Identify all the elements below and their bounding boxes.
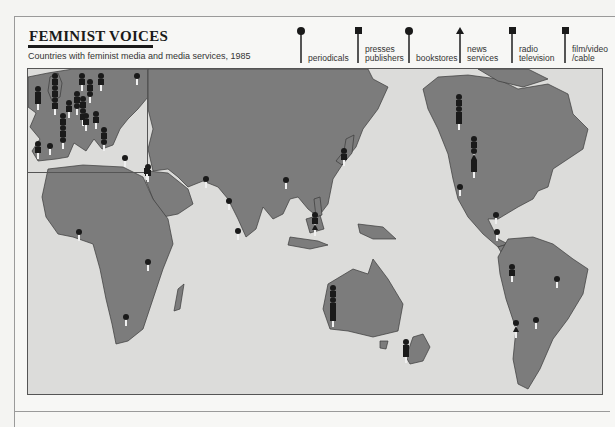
circle-marker-icon	[145, 259, 151, 265]
square-marker-icon	[52, 103, 58, 109]
map-pin-israel	[144, 168, 150, 180]
south-america	[498, 237, 588, 389]
map-pin-denmark	[87, 79, 93, 103]
legend-label: radiotelevision	[519, 45, 554, 63]
map-pin-mexico	[457, 184, 463, 196]
legend-stem	[300, 33, 302, 63]
circle-marker-icon	[122, 155, 128, 161]
map-pin-philippines	[312, 212, 318, 236]
map-pin-south-africa	[123, 314, 129, 326]
map-pin-greece	[122, 155, 128, 167]
title-underline	[28, 45, 153, 48]
circle-marker-icon	[47, 143, 53, 149]
circle-marker-icon	[283, 177, 289, 183]
legend-label: newsservices	[467, 45, 498, 63]
square-marker-icon	[341, 154, 347, 160]
map-pin-canada	[456, 94, 462, 130]
north-america	[423, 75, 588, 247]
circle-marker-icon	[297, 27, 305, 35]
map-pin-australia	[330, 285, 336, 327]
map-pin-switzerland	[83, 113, 89, 131]
square-marker-icon	[83, 119, 89, 125]
tasmania	[380, 341, 388, 349]
map-pin-pakistan	[203, 176, 209, 188]
square-marker-icon	[79, 79, 85, 85]
map-pin-kenya	[145, 259, 151, 271]
square-marker-icon	[509, 270, 515, 276]
square-marker-icon	[471, 166, 477, 172]
circle-marker-icon	[76, 229, 82, 235]
legend-stem	[511, 33, 513, 63]
legend-label: periodicals	[308, 54, 349, 63]
map-pin-colombia	[494, 229, 500, 241]
page-subtitle: Countries with feminist media and media …	[28, 51, 251, 61]
square-marker-icon	[93, 117, 99, 123]
map-pin-norway	[79, 73, 85, 91]
triangle-marker-icon	[513, 326, 519, 332]
legend-label: film/video/cable	[572, 45, 608, 63]
map-pin-belgium	[66, 100, 72, 118]
square-marker-icon	[144, 168, 150, 174]
triangle-marker-icon	[456, 27, 464, 34]
square-marker-icon	[562, 27, 569, 34]
square-marker-icon	[456, 118, 462, 124]
map-pin-united-states	[471, 136, 477, 178]
map-pin-finland	[134, 73, 140, 85]
map-pin-india	[226, 198, 232, 210]
map-pin-austria	[93, 111, 99, 129]
square-marker-icon	[98, 79, 104, 85]
square-marker-icon	[35, 98, 41, 104]
circle-marker-icon	[493, 212, 499, 218]
map-pin-chile	[513, 320, 519, 338]
triangle-marker-icon	[312, 224, 318, 230]
circle-marker-icon	[60, 137, 66, 143]
legend-stem	[408, 33, 410, 63]
circle-marker-icon	[203, 176, 209, 182]
new-guinea	[358, 224, 396, 239]
map-pin-sweden	[98, 73, 104, 91]
legend-label: pressespublishers	[365, 45, 404, 63]
map-pin-peru	[509, 264, 515, 282]
legend-stem	[564, 33, 566, 63]
map-pin-nigeria	[76, 229, 82, 241]
circle-marker-icon	[101, 139, 107, 145]
map-pin-brazil	[554, 276, 560, 288]
map-pin-france	[60, 113, 66, 149]
map-pin-italy	[101, 127, 107, 151]
map-pin-united-kingdom	[52, 73, 58, 115]
page-title: FEMINIST VOICES	[29, 28, 168, 45]
square-marker-icon	[509, 27, 516, 34]
square-marker-icon	[403, 351, 409, 357]
map-pin-japan	[341, 148, 347, 166]
circle-marker-icon	[226, 198, 232, 204]
legend-stem	[357, 33, 359, 63]
square-marker-icon	[35, 147, 41, 153]
legend-stem	[459, 33, 461, 63]
map-pin-argentina	[533, 317, 539, 329]
circle-marker-icon	[533, 317, 539, 323]
map-pin-ireland	[35, 86, 41, 110]
map-pin-portugal	[35, 141, 41, 159]
circle-marker-icon	[235, 228, 241, 234]
map-pin-china	[283, 177, 289, 189]
indonesia	[288, 237, 328, 249]
map-pin-costa-rica	[493, 212, 499, 224]
circle-marker-icon	[457, 184, 463, 190]
map-pin-spain	[47, 143, 53, 155]
map-pin-new-zealand	[403, 339, 409, 363]
bottom-divider	[14, 411, 610, 412]
circle-marker-icon	[405, 27, 413, 35]
circle-marker-icon	[87, 91, 93, 97]
circle-marker-icon	[134, 73, 140, 79]
legend-label: bookstores	[416, 54, 458, 63]
madagascar	[174, 284, 184, 311]
map-pin-sri-lanka	[235, 228, 241, 240]
square-marker-icon	[66, 106, 72, 112]
square-marker-icon	[355, 27, 362, 34]
new-zealand	[406, 334, 430, 364]
circle-marker-icon	[494, 229, 500, 235]
square-marker-icon	[330, 315, 336, 321]
circle-marker-icon	[554, 276, 560, 282]
circle-marker-icon	[123, 314, 129, 320]
